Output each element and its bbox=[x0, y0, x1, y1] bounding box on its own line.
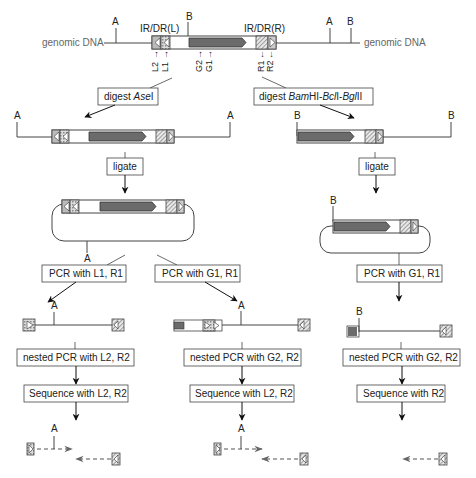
pcr-g1-r1-box-left: PCR with G1, R1 bbox=[155, 265, 240, 282]
circular-plasmid-asei: A bbox=[52, 200, 194, 264]
column1-pcr-product: A bbox=[23, 300, 124, 331]
site-b-right-label: B bbox=[347, 16, 354, 27]
column2-pcr-product: A bbox=[174, 300, 310, 331]
asei-fragment: A A bbox=[14, 110, 234, 143]
nested-pcr-g2-r2-box-right: nested PCR with G2, R2 bbox=[343, 349, 460, 366]
site-a-label: A bbox=[14, 110, 21, 121]
svg-text:G1: G1 bbox=[204, 60, 214, 72]
site-a-label: A bbox=[112, 16, 119, 27]
nested-pcr-g2-r2-box-left: nested PCR with G2, R2 bbox=[184, 349, 301, 366]
ir-right-inner bbox=[256, 36, 268, 49]
svg-text:R2: R2 bbox=[265, 60, 275, 72]
ir-dr-right-label: IR/DR(R) bbox=[244, 23, 285, 34]
svg-text:A: A bbox=[238, 423, 245, 434]
digest-bamhi-bcli-bglii-box: digest BamHI-BclI-BglII bbox=[254, 88, 373, 105]
ligate-left-box: ligate bbox=[107, 158, 143, 175]
digest-asei-box: digest AseI bbox=[98, 88, 158, 105]
svg-text:B: B bbox=[294, 110, 301, 121]
svg-text:L2: L2 bbox=[150, 62, 160, 72]
column1-sequencing-result: A bbox=[27, 423, 120, 465]
svg-text:PCR with G1, R1: PCR with G1, R1 bbox=[162, 268, 239, 279]
svg-text:nested PCR with L2, R2: nested PCR with L2, R2 bbox=[23, 352, 130, 363]
svg-text:→: → bbox=[150, 50, 160, 59]
pcr-l1-r1-box: PCR with L1, R1 bbox=[42, 265, 126, 282]
ligate-right-box: ligate bbox=[359, 158, 395, 175]
gene-arrow bbox=[189, 38, 246, 47]
svg-text:B: B bbox=[356, 306, 363, 317]
svg-text:nested PCR with G2, R2: nested PCR with G2, R2 bbox=[190, 352, 299, 363]
svg-text:L1: L1 bbox=[160, 62, 170, 72]
svg-text:A: A bbox=[51, 423, 58, 434]
svg-text:ligate: ligate bbox=[365, 161, 389, 172]
primer-l2: L2 → bbox=[150, 50, 160, 72]
svg-text:G2: G2 bbox=[194, 60, 204, 72]
genomic-dna-map: genomic DNA A B IR/DR(L) IR/DR(R) A B ge… bbox=[42, 11, 426, 72]
ir-dr-left-label: IR/DR(L) bbox=[140, 23, 179, 34]
primer-g2: G2 → bbox=[194, 50, 204, 72]
svg-text:→: → bbox=[194, 50, 204, 59]
svg-text:PCR with L1, R1: PCR with L1, R1 bbox=[49, 268, 123, 279]
svg-text:digest BamHI-BclI-BglII: digest BamHI-BclI-BglII bbox=[259, 91, 362, 102]
svg-text:nested PCR with G2, R2: nested PCR with G2, R2 bbox=[349, 352, 458, 363]
site-a-label: A bbox=[84, 253, 91, 264]
svg-text:Sequence with R2: Sequence with R2 bbox=[363, 388, 445, 399]
sequence-l2-r2-box-middle: Sequence with L2, R2 bbox=[190, 385, 294, 402]
svg-text:A: A bbox=[51, 300, 58, 311]
svg-text:→: → bbox=[160, 50, 170, 59]
svg-text:PCR with G1, R1: PCR with G1, R1 bbox=[364, 268, 441, 279]
svg-text:digest AseI: digest AseI bbox=[104, 91, 153, 102]
svg-text:ligate: ligate bbox=[113, 161, 137, 172]
pcr-g1-r1-box-right: PCR with G1, R1 bbox=[357, 265, 442, 282]
transposon-mapping-diagram: genomic DNA A B IR/DR(L) IR/DR(R) A B ge… bbox=[0, 0, 476, 478]
sequence-r2-box: Sequence with R2 bbox=[357, 385, 445, 402]
svg-text:Sequence with L2, R2: Sequence with L2, R2 bbox=[195, 388, 293, 399]
site-a-label: A bbox=[227, 110, 234, 121]
site-b-label: B bbox=[186, 11, 193, 22]
svg-text:→: → bbox=[204, 50, 214, 59]
svg-text:B: B bbox=[448, 110, 455, 121]
bamhi-fragment: B B bbox=[294, 110, 455, 143]
right-pcr-product: B bbox=[347, 306, 452, 337]
svg-text:B: B bbox=[330, 195, 337, 206]
genomic-dna-right-label: genomic DNA bbox=[364, 37, 426, 48]
genomic-dna-left-label: genomic DNA bbox=[42, 37, 104, 48]
column2-sequencing-result: A bbox=[214, 423, 308, 465]
primer-l1: L1 → bbox=[160, 50, 170, 72]
sequence-l2-r2-box-left: Sequence with L2, R2 bbox=[24, 385, 128, 402]
nested-pcr-l2-r2-box: nested PCR with L2, R2 bbox=[17, 349, 134, 366]
svg-text:A: A bbox=[238, 300, 245, 311]
primer-g1: G1 → bbox=[204, 50, 214, 72]
site-a-right-label: A bbox=[326, 16, 333, 27]
circular-plasmid-bamhi: B bbox=[320, 195, 430, 253]
right-sequencing-result bbox=[403, 453, 447, 465]
primer-r2: R2 ← bbox=[265, 50, 275, 72]
svg-text:←: ← bbox=[265, 50, 275, 59]
svg-text:Sequence with L2, R2: Sequence with L2, R2 bbox=[29, 388, 127, 399]
